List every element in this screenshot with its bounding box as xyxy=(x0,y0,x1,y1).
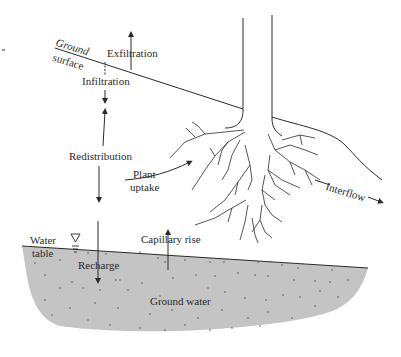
interflow-arrow xyxy=(368,197,381,202)
groundwater-zone xyxy=(22,246,368,331)
infiltration-label: Infiltration xyxy=(82,75,130,87)
ground-water-label: Ground water xyxy=(150,295,211,307)
exfiltration-label: Exfiltration xyxy=(107,47,158,59)
recharge-label: Recharge xyxy=(78,259,119,271)
redistribution-label: Redistribution xyxy=(69,150,132,162)
water-table-label-2: table xyxy=(32,247,53,259)
redistribution-up-arrow xyxy=(103,111,105,146)
hydrology-diagram: Ground surface Exfiltration Infiltration… xyxy=(0,0,401,357)
capillary-rise-label: Capillary rise xyxy=(141,233,201,245)
tree-roots xyxy=(170,122,320,243)
water-table-label-1: Water xyxy=(30,234,56,246)
plant-uptake-label-1: Plant xyxy=(133,168,156,180)
plant-uptake-label-2: uptake xyxy=(130,181,159,193)
